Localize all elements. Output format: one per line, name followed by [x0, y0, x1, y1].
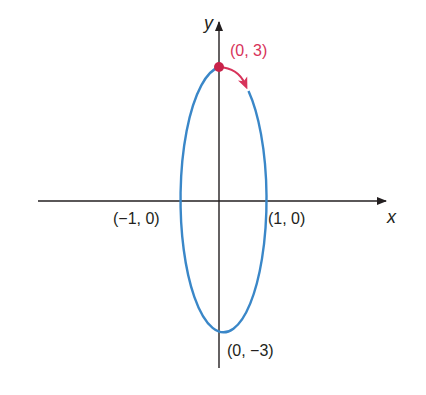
point-label-right: (1, 0)	[268, 210, 305, 227]
x-axis-label: x	[386, 207, 397, 227]
start-point-dot	[214, 62, 224, 72]
point-label-top: (0, 3)	[230, 42, 267, 59]
point-label-bottom: (0, −3)	[227, 342, 274, 359]
y-axis-label: y	[202, 13, 214, 33]
point-label-left: (−1, 0)	[113, 210, 160, 227]
ellipse-diagram: y x (0, 3) (−1, 0) (1, 0) (0, −3)	[0, 0, 426, 395]
ellipse-curve	[181, 67, 267, 332]
